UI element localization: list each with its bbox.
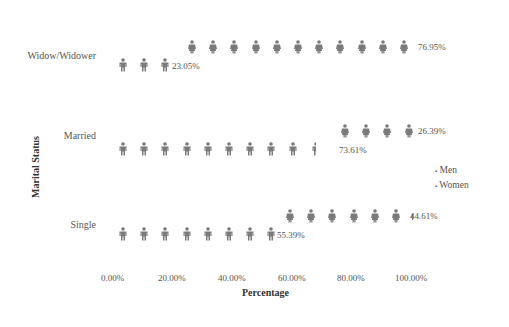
man-icon xyxy=(118,142,128,156)
man-icon xyxy=(224,227,234,241)
man-icon xyxy=(118,58,128,72)
man-icon xyxy=(160,58,170,72)
x-tick-100: 100.00% xyxy=(395,273,427,283)
value-label-married-men: 73.61% xyxy=(339,145,367,155)
woman-icon xyxy=(361,124,371,138)
man-icon xyxy=(266,227,276,241)
woman-icon xyxy=(251,40,261,54)
woman-icon xyxy=(306,209,316,223)
legend-women-label: Women xyxy=(439,180,468,190)
x-tick-20: 20.00% xyxy=(158,273,186,283)
man-icon xyxy=(245,227,255,241)
man-icon xyxy=(203,227,213,241)
value-label-widow-men: 23.05% xyxy=(172,61,200,71)
x-tick-40: 40.00% xyxy=(218,273,246,283)
man-icon-partial xyxy=(311,142,316,156)
legend-men: ▪ Men xyxy=(435,165,457,175)
row-label-married: Married xyxy=(16,130,96,141)
woman-icon xyxy=(399,40,409,54)
man-icon xyxy=(160,227,170,241)
value-label-married-women: 26.39% xyxy=(418,126,446,136)
woman-icon xyxy=(272,40,282,54)
man-icon xyxy=(139,227,149,241)
legend-men-label: Men xyxy=(440,165,457,175)
row-label-widow: Widow/Widower xyxy=(16,50,96,61)
x-tick-0: 0.00% xyxy=(101,273,124,283)
woman-icon xyxy=(293,40,303,54)
man-icon xyxy=(182,227,192,241)
woman-icon xyxy=(370,209,380,223)
legend-women: ▪ Women xyxy=(435,180,469,190)
man-icon xyxy=(139,142,149,156)
man-icon xyxy=(203,142,213,156)
woman-icon xyxy=(187,40,197,54)
woman-icon xyxy=(378,40,388,54)
woman-icon xyxy=(382,124,392,138)
x-axis-title: Percentage xyxy=(242,287,289,298)
woman-icon xyxy=(357,40,367,54)
value-label-widow-women: 76.95% xyxy=(418,42,446,52)
man-icon xyxy=(160,142,170,156)
legend-bullet-icon: ▪ xyxy=(435,168,437,174)
woman-icon xyxy=(285,209,295,223)
x-tick-60: 60.00% xyxy=(278,273,306,283)
value-label-single-women: 44.61% xyxy=(410,211,438,221)
man-icon xyxy=(139,58,149,72)
woman-icon xyxy=(404,124,414,138)
man-icon xyxy=(266,142,276,156)
legend-bullet-icon: ▪ xyxy=(435,183,437,189)
x-tick-80: 80.00% xyxy=(337,273,365,283)
man-icon xyxy=(245,142,255,156)
row-label-single: Single xyxy=(16,219,96,230)
man-icon xyxy=(288,142,298,156)
woman-icon xyxy=(327,209,337,223)
woman-icon xyxy=(335,40,345,54)
woman-icon xyxy=(391,209,401,223)
woman-icon xyxy=(229,40,239,54)
woman-icon xyxy=(340,124,350,138)
woman-icon xyxy=(314,40,324,54)
woman-icon xyxy=(208,40,218,54)
y-axis-title: Marital Status xyxy=(30,136,41,198)
value-label-single-men: 55.39% xyxy=(277,230,305,240)
man-icon xyxy=(224,142,234,156)
man-icon xyxy=(118,227,128,241)
woman-icon xyxy=(349,209,359,223)
man-icon xyxy=(182,142,192,156)
